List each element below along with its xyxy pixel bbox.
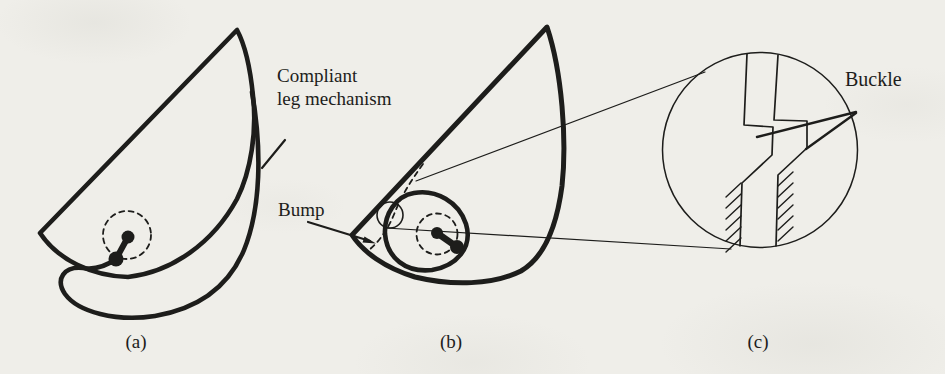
- buckle-label: Buckle: [845, 68, 902, 91]
- panel-a-caption: (a): [106, 331, 166, 353]
- compliant-leg-label-line2: leg mechanism: [277, 87, 392, 110]
- panel-a-drawing: [40, 30, 258, 318]
- beam-left-edge: [740, 54, 773, 246]
- crank-end-dot-a: [109, 252, 124, 267]
- figure-canvas: [0, 0, 945, 374]
- bump-label: Bump: [278, 198, 324, 221]
- ground-hatching-right: [778, 172, 793, 241]
- crank-pivot-dot-b: [431, 227, 443, 239]
- magnifier-circle: [663, 53, 858, 248]
- bump-leader-arrowhead: [363, 237, 377, 244]
- foot-curve-a: [61, 92, 259, 318]
- leg-outline-a: [40, 30, 254, 277]
- scanned-figure-page: { "figure": { "type": "diagram", "labels…: [0, 0, 945, 374]
- panel-c-caption: (c): [728, 331, 788, 353]
- panel-b-caption: (b): [421, 331, 481, 353]
- compliant-leg-label: Compliant leg mechanism: [277, 64, 392, 110]
- panel-c-drawing: [663, 53, 858, 253]
- compliant-leader-line: [262, 140, 285, 168]
- compliant-leg-label-line1: Compliant: [277, 64, 392, 87]
- crank-end-dot-b: [450, 240, 464, 254]
- crank-pivot-dot-a: [122, 231, 135, 244]
